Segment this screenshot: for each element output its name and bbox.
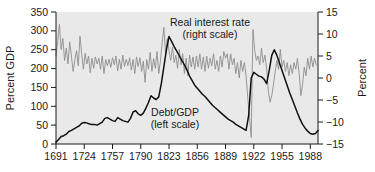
- x-tick-label: 1988: [299, 150, 323, 162]
- chart-figure: 050100150200250300350 −15−10−5051015 169…: [0, 0, 375, 172]
- debt-annotation-line2: (left scale): [151, 118, 199, 130]
- right-tick-label: 0: [326, 72, 332, 84]
- x-tick-label: 1823: [157, 150, 181, 162]
- x-tick-label: 1724: [73, 150, 97, 162]
- debt-gdp-interest-rate-chart: 050100150200250300350 −15−10−5051015 169…: [0, 0, 375, 172]
- left-tick-label: 200: [30, 62, 48, 74]
- left-tick-label: 300: [30, 24, 48, 36]
- right-tick-label: −15: [326, 138, 344, 150]
- left-tick-label: 150: [30, 81, 48, 93]
- x-tick-label: 1889: [214, 150, 238, 162]
- debt-annotation-line1: Debt/GDP: [151, 106, 199, 118]
- x-tick-label: 1856: [186, 150, 210, 162]
- right-tick-label: 15: [326, 6, 338, 18]
- right-tick-label: 10: [326, 28, 338, 40]
- left-tick-label: 250: [30, 43, 48, 55]
- left-tick-label: 0: [42, 138, 48, 150]
- x-tick-label: 1955: [270, 150, 294, 162]
- x-tick-label: 1790: [129, 150, 153, 162]
- x-tick-label: 1757: [101, 150, 125, 162]
- right-tick-label: −10: [326, 116, 344, 128]
- left-tick-label: 350: [30, 6, 48, 18]
- x-tick-label: 1922: [242, 150, 266, 162]
- right-tick-label: −5: [326, 94, 338, 106]
- rate-annotation-line2: (right scale): [183, 28, 238, 40]
- right-tick-label: 5: [326, 50, 332, 62]
- left-tick-label: 50: [36, 119, 48, 131]
- right-axis-title: Percent: [356, 59, 368, 97]
- x-tick-label: 1691: [44, 150, 68, 162]
- left-tick-label: 100: [30, 100, 48, 112]
- rate-annotation-line1: Real interest rate: [170, 16, 250, 28]
- left-axis-title: Percent GDP: [4, 46, 16, 111]
